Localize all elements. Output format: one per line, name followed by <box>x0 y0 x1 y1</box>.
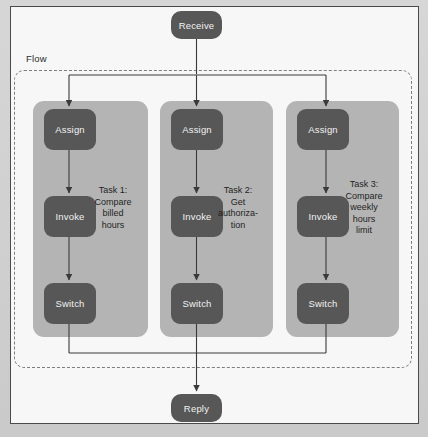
switch-node-1-label: Switch <box>55 298 84 309</box>
switch-node-1[interactable]: Switch <box>44 283 96 324</box>
switch-node-2[interactable]: Switch <box>171 283 223 324</box>
assign-node-1-label: Assign <box>55 124 85 135</box>
task-caption-1: Task 1: Compare billed hours <box>85 185 141 231</box>
invoke-node-2-label: Invoke <box>182 211 211 222</box>
task-caption-2: Task 2: Get authoriza- tion <box>210 185 266 231</box>
assign-node-3-label: Assign <box>308 124 338 135</box>
receive-node-label: Receive <box>179 20 215 31</box>
assign-node-2[interactable]: Assign <box>171 109 223 150</box>
diagram-canvas: Receive Flow Assign Invoke Switch Task 1… <box>0 0 428 437</box>
reply-node-label: Reply <box>184 403 209 414</box>
task-caption-3: Task 3: Compare weekly hours limit <box>336 179 392 237</box>
task-column-3[interactable]: Assign Invoke Switch Task 3: Compare wee… <box>286 101 399 337</box>
assign-node-3[interactable]: Assign <box>297 109 349 150</box>
assign-node-1[interactable]: Assign <box>44 109 96 150</box>
task-column-2[interactable]: Assign Invoke Switch Task 2: Get authori… <box>160 101 273 337</box>
assign-node-2-label: Assign <box>182 124 212 135</box>
task-column-1[interactable]: Assign Invoke Switch Task 1: Compare bil… <box>33 101 148 337</box>
flow-scope-label: Flow <box>26 53 47 64</box>
switch-node-3-label: Switch <box>308 298 337 309</box>
invoke-node-1-label: Invoke <box>55 211 84 222</box>
receive-node[interactable]: Receive <box>171 11 222 39</box>
switch-node-2-label: Switch <box>182 298 211 309</box>
reply-node[interactable]: Reply <box>171 394 222 422</box>
switch-node-3[interactable]: Switch <box>297 283 349 324</box>
invoke-node-3-label: Invoke <box>308 211 337 222</box>
